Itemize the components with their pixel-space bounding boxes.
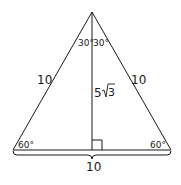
triangle-diagram: 30° 30° 10 10 5 3 60° 60° 10 (0, 0, 181, 185)
left-side-label: 10 (37, 73, 52, 87)
base-brace (13, 151, 171, 159)
right-angle-marker (92, 140, 102, 150)
apex-right-angle-label: 30° (93, 38, 109, 48)
base-right-angle-label: 60° (150, 140, 166, 150)
base-label: 10 (86, 160, 101, 174)
base-left-angle-label: 60° (18, 140, 34, 150)
right-side-label: 10 (131, 73, 146, 87)
apex-left-angle-label: 30° (78, 38, 94, 48)
altitude-label: 5 (94, 86, 102, 100)
altitude-radicand: 3 (108, 86, 115, 99)
